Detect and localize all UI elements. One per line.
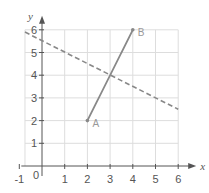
y-axis-arrow-icon <box>39 16 45 24</box>
coordinate-plane-chart: AB -10123456123456xy <box>0 0 209 193</box>
y-tick-label: 4 <box>31 69 37 81</box>
point-b-marker <box>131 28 135 32</box>
y-axis-label: y <box>27 10 33 22</box>
x-tick-label: -1 <box>14 173 24 185</box>
x-tick-label: 6 <box>175 173 181 185</box>
point-b-label: B <box>138 27 145 38</box>
x-tick-label: 4 <box>130 173 136 185</box>
y-tick-label: 1 <box>31 137 37 149</box>
x-axis-label: x <box>199 160 205 172</box>
y-tick-label: 5 <box>31 47 37 59</box>
y-tick-label: 3 <box>31 92 37 104</box>
point-a-label: A <box>92 118 99 129</box>
axes <box>19 16 196 176</box>
x-tick-label: 3 <box>107 173 113 185</box>
x-axis-arrow-icon <box>188 163 196 169</box>
y-tick-label: 6 <box>31 24 37 36</box>
y-tick-label: 2 <box>31 115 37 127</box>
x-tick-label: 1 <box>62 173 68 185</box>
point-a-marker <box>86 119 90 123</box>
x-tick-label: 0 <box>33 169 39 181</box>
x-tick-label: 2 <box>84 173 90 185</box>
x-tick-label: 5 <box>152 173 158 185</box>
